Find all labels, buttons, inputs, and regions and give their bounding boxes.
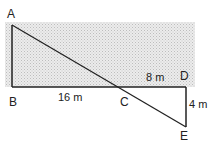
measure-bc: 16 m (58, 91, 82, 103)
label-e: E (180, 129, 188, 141)
label-b: B (9, 95, 17, 109)
measure-cd: 8 m (146, 71, 164, 83)
label-c: C (120, 95, 129, 109)
similar-triangles-diagram: A B C D E 16 m 8 m 4 m (0, 0, 215, 141)
measure-de: 4 m (189, 98, 207, 110)
label-d: D (180, 69, 189, 83)
label-a: A (7, 7, 15, 21)
